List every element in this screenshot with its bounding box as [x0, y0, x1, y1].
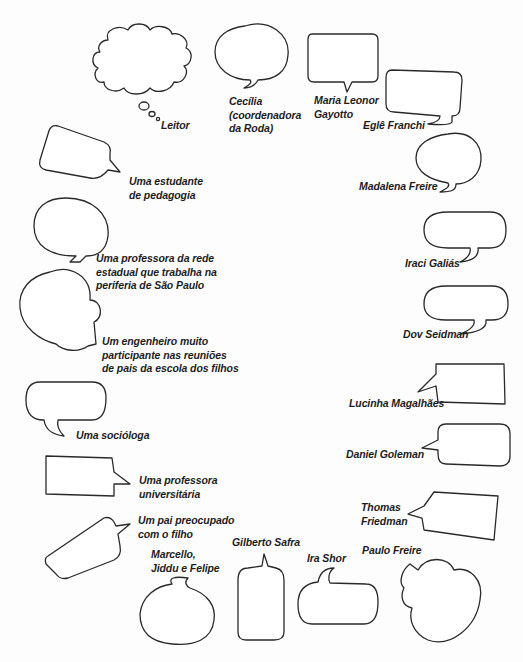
speech-bubble-engenheiro [20, 270, 101, 351]
label-egle: Eglê Franchi [363, 119, 425, 133]
speech-bubble-maria-leonor [308, 34, 378, 92]
label-cecilia: Cecília (coordenadora da Roda) [229, 95, 301, 136]
speech-bubble-cecilia [215, 24, 288, 88]
label-marcello: Marcello, Jiddu e Felipe [151, 548, 220, 575]
thought-cloud-icon [93, 24, 191, 121]
speech-bubble-goleman [422, 424, 510, 466]
speech-bubble-estudante [40, 126, 120, 179]
speech-bubble-gilberto [238, 554, 284, 640]
label-gilberto: Gilberto Safra [232, 536, 300, 550]
label-ira-shor: Ira Shor [307, 552, 346, 566]
speech-bubble-prof-univ [46, 456, 130, 496]
speech-bubble-sociologa [26, 382, 106, 436]
speech-bubble-pai [45, 518, 130, 579]
label-estudante: Uma estudante de pedagogia [129, 175, 203, 202]
label-friedman: Thomas Friedman [361, 501, 407, 528]
speech-bubble-dov [424, 286, 508, 334]
label-prof-univ: Uma professora universitária [139, 474, 218, 501]
speech-bubble-egle [386, 70, 462, 125]
label-pai: Um pai preocupado com o filho [138, 514, 234, 541]
speech-bubble-marcello [140, 577, 214, 644]
label-leitor: Leitor [161, 119, 190, 133]
label-sociologa: Uma socióloga [76, 429, 149, 443]
speech-bubble-paulo-freire [401, 560, 481, 642]
label-prof-rede: Uma professora da rede estadual que trab… [96, 252, 217, 293]
speech-bubble-ira-shor [298, 568, 378, 624]
label-maria-leonor: Maria Leonor Gayotto [314, 94, 379, 121]
speech-bubble-iraci [424, 212, 506, 262]
label-paulo-freire: Paulo Freire [362, 544, 422, 558]
speech-bubble-diagram: Leitor Cecília (coordenadora da Roda) Ma… [0, 0, 523, 662]
label-lucinha: Lucinha Magalhães [349, 397, 444, 411]
label-dov: Dov Seidman [403, 328, 468, 342]
speech-bubble-friedman [408, 492, 498, 540]
label-goleman: Daniel Goleman [346, 448, 424, 462]
label-iraci: Iraci Galiás [405, 257, 460, 271]
label-engenheiro: Um engenheiro muito participante nas reu… [102, 335, 239, 376]
label-madalena: Madalena Freire [359, 180, 437, 194]
